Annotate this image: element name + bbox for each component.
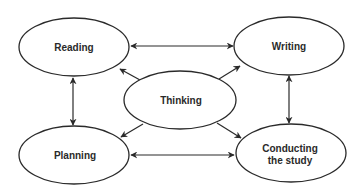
edge-thinking-planning: [121, 124, 143, 137]
node-planning: Planning: [19, 126, 129, 184]
edge-thinking-reading: [120, 69, 140, 80]
node-writing: Writing: [234, 17, 344, 75]
research-process-diagram: Reading Writing Thinking Planning Conduc…: [0, 0, 363, 193]
node-reading: Reading: [19, 18, 129, 76]
writing-label: Writing: [272, 41, 306, 52]
planning-label: Planning: [54, 150, 96, 161]
reading-label: Reading: [54, 42, 93, 53]
thinking-label: Thinking: [160, 95, 202, 106]
conducting-label-line2: the study: [268, 155, 313, 166]
node-thinking: Thinking: [124, 71, 236, 129]
edge-thinking-writing: [219, 66, 240, 79]
edge-thinking-conducting: [217, 123, 241, 138]
conducting-label-line1: Conducting: [262, 143, 318, 154]
node-conducting-the-study: Conducting the study: [236, 124, 346, 182]
